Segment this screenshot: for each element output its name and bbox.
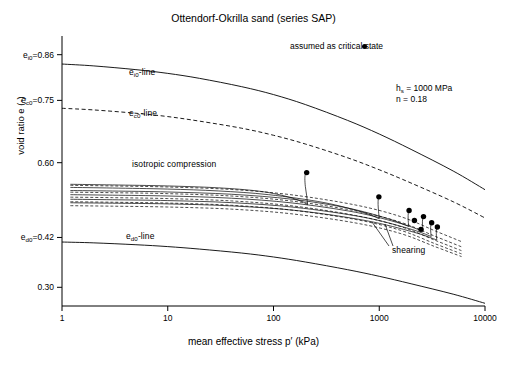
bounding-curve-e_d0-line xyxy=(62,242,485,303)
axes xyxy=(62,36,485,306)
critical-state-point xyxy=(418,227,423,232)
critical-state-point xyxy=(406,208,411,213)
isotropic-compression-path-test-7-dashed xyxy=(70,185,461,241)
figure-root: Ottendorf-Okrilla sand (series SAP) void… xyxy=(0,0,507,365)
y-tick-marks xyxy=(57,55,62,288)
isotropic-compression-path-test-10-dashed xyxy=(70,202,461,254)
plot-canvas xyxy=(0,0,507,365)
bounding-curve-e_c0-line xyxy=(62,108,485,218)
isotropic-compression-path-test-3 xyxy=(70,191,408,227)
critical-state-point xyxy=(304,170,309,175)
bounding-curve-e_i0-line xyxy=(62,64,485,190)
critical-state-point xyxy=(412,218,417,223)
critical-state-point xyxy=(376,194,381,199)
isotropic-compression-path-test-11-dashed xyxy=(70,206,461,257)
critical-state-point xyxy=(421,214,426,219)
critical-state-point xyxy=(435,224,440,229)
shearing-leader-1 xyxy=(372,222,389,246)
x-tick-marks xyxy=(62,306,485,311)
isotropic-compression-path-test-1 xyxy=(70,184,307,204)
bounding-curves xyxy=(62,64,485,303)
critical-state-point xyxy=(429,220,434,225)
